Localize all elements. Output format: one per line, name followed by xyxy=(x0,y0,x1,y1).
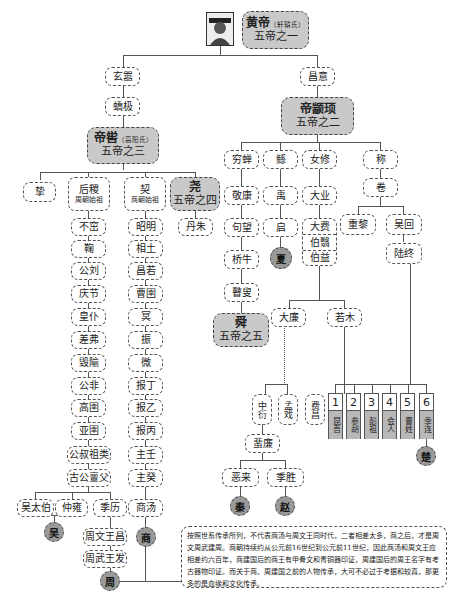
node-luzhong[interactable]: 陆终 xyxy=(386,243,422,264)
node-feichang[interactable]: 费昌 xyxy=(305,394,325,425)
node-chongli[interactable]: 重黎 xyxy=(340,214,376,235)
node-caoyu[interactable]: 曹圉 xyxy=(128,285,163,303)
luzhong-son-3[interactable]: 3彭祖 xyxy=(364,393,379,439)
node-label: 公刘 xyxy=(79,265,99,277)
node-yayu[interactable]: 亚圉 xyxy=(71,422,106,440)
node-xiangtu[interactable]: 相土 xyxy=(128,240,163,258)
node-label: 契 xyxy=(140,184,150,196)
son-number: 4 xyxy=(383,394,396,411)
node-changyi[interactable]: 昌意 xyxy=(300,67,335,86)
state-zhao-badge[interactable]: 赵 xyxy=(275,496,295,516)
node-daye[interactable]: 大业 xyxy=(302,186,337,205)
node-clan: （轩辕氏） xyxy=(270,21,305,29)
luzhong-son-5[interactable]: 5曹姓 xyxy=(400,393,415,439)
node-juwang[interactable]: 句望 xyxy=(224,218,259,237)
node-qi[interactable]: 启 xyxy=(263,218,298,237)
state-chu-badge[interactable]: 楚 xyxy=(416,446,436,466)
node-changruo[interactable]: 昌若 xyxy=(128,262,163,280)
node-zhongyan[interactable]: 中衍 xyxy=(252,394,272,425)
node-gun[interactable]: 鲧 xyxy=(263,150,298,169)
state-wu-badge[interactable]: 吴 xyxy=(44,522,64,542)
node-gugongdanfu[interactable]: 古公亶父 xyxy=(67,469,111,487)
node-buzhu[interactable]: 不窋 xyxy=(71,218,106,236)
node-label: 仲雍 xyxy=(62,502,82,514)
node-qiaoniu[interactable]: 桥牛 xyxy=(224,250,259,269)
connector xyxy=(354,384,355,393)
node-jiaoji[interactable]: 蟜极 xyxy=(105,97,140,116)
node-gusou[interactable]: 瞽叟 xyxy=(224,283,259,302)
node-zhaoming[interactable]: 昭明 xyxy=(128,218,163,236)
node-xie[interactable]: 契 商朝始祖 xyxy=(124,177,166,211)
node-wutaibo[interactable]: 吴太伯 xyxy=(17,499,54,517)
node-huiyu[interactable]: 毁隃 xyxy=(71,354,106,372)
node-huangdi[interactable]: 黄帝（轩辕氏） 五帝之一 xyxy=(242,11,309,49)
node-baoding[interactable]: 报丁 xyxy=(128,377,163,395)
node-wei[interactable]: 微 xyxy=(128,354,163,372)
node-zhouwenwang[interactable]: 周文王昌 xyxy=(83,528,127,546)
node-nvxiu[interactable]: 女修 xyxy=(302,150,337,169)
node-label: 敬康 xyxy=(232,190,252,202)
luzhong-son-6[interactable]: 6季连 xyxy=(419,393,434,439)
node-cheng[interactable]: 称 xyxy=(363,150,398,169)
node-label: 中衍 xyxy=(257,401,267,419)
node-ming[interactable]: 冥 xyxy=(128,308,163,326)
node-zhuren[interactable]: 主壬 xyxy=(128,446,163,464)
connector xyxy=(120,581,182,582)
connector xyxy=(72,492,73,499)
node-label: 公非 xyxy=(79,380,99,392)
node-gongshuzulei[interactable]: 公叔祖类 xyxy=(67,446,111,464)
state-zhou-badge[interactable]: 周 xyxy=(100,571,120,591)
state-shang-badge[interactable]: 商 xyxy=(136,527,156,547)
node-zhouwuwang[interactable]: 周武王发 xyxy=(83,550,127,568)
node-yu[interactable]: 禹 xyxy=(263,186,298,205)
node-gongfei[interactable]: 公非 xyxy=(71,377,106,395)
node-zhen[interactable]: 振 xyxy=(128,331,163,349)
state-qin-badge[interactable]: 秦 xyxy=(230,496,250,516)
node-chafu[interactable]: 差弗 xyxy=(71,331,106,349)
node-mengxi[interactable]: 孟戏 xyxy=(278,394,298,425)
node-zhi[interactable]: 挚 xyxy=(23,182,56,202)
node-qingjie[interactable]: 庆节 xyxy=(71,285,106,303)
node-feilian[interactable]: 蜚廉 xyxy=(245,434,280,453)
node-wuhui[interactable]: 吴回 xyxy=(386,214,422,235)
node-qiongchan[interactable]: 穷蝉 xyxy=(224,150,259,169)
node-baobing[interactable]: 报丙 xyxy=(128,422,163,440)
node-label: 瞽叟 xyxy=(232,287,252,299)
node-gaoyu[interactable]: 高圉 xyxy=(71,399,106,417)
node-jisheng[interactable]: 季胜 xyxy=(267,468,304,487)
node-diku[interactable]: 帝喾（高阳氏） 五帝之三 xyxy=(87,127,159,164)
node-shangtang[interactable]: 商汤 xyxy=(128,499,163,517)
node-baoyi[interactable]: 报乙 xyxy=(128,399,163,417)
node-jingkang[interactable]: 敬康 xyxy=(224,186,259,205)
node-zhuanxu[interactable]: 帝颛顼 五帝之二 xyxy=(281,97,354,135)
node-yao[interactable]: 尧 五帝之四 xyxy=(170,177,220,211)
node-dalian[interactable]: 大廉 xyxy=(271,308,306,327)
node-gongliu[interactable]: 公刘 xyxy=(71,262,106,280)
connector xyxy=(35,492,36,499)
node-label: 陆终 xyxy=(394,248,414,260)
node-label: 曹圉 xyxy=(136,288,156,300)
node-zhongyong[interactable]: 仲雍 xyxy=(55,499,88,517)
node-zhugui[interactable]: 主癸 xyxy=(128,469,163,487)
node-jili[interactable]: 季历 xyxy=(93,499,127,517)
luzhong-son-1[interactable]: 1昆吾 xyxy=(328,393,343,439)
node-title: 五帝之二 xyxy=(296,117,340,130)
node-label: 若木 xyxy=(335,312,355,324)
node-ju[interactable]: 鞠 xyxy=(71,240,106,258)
state-xia-badge[interactable]: 夏 xyxy=(270,247,292,269)
node-houji[interactable]: 后稷 周朝始祖 xyxy=(68,177,110,211)
node-label: 毁隃 xyxy=(79,357,99,369)
connector xyxy=(335,384,427,385)
node-ruomu[interactable]: 若木 xyxy=(327,308,362,327)
node-juan[interactable]: 卷 xyxy=(363,178,398,197)
luzhong-son-4[interactable]: 4会人 xyxy=(382,393,397,439)
luzhong-son-2[interactable]: 2参胡 xyxy=(346,393,361,439)
node-shun[interactable]: 舜 五帝之五 xyxy=(213,313,269,347)
node-danzhu[interactable]: 丹朱 xyxy=(178,218,213,236)
node-dafei-group[interactable]: 大费 伯翳 伯益 xyxy=(302,218,337,266)
node-huangpu[interactable]: 皇仆 xyxy=(71,308,106,326)
node-label: 相土 xyxy=(136,243,156,255)
portrait-icon xyxy=(206,12,234,46)
node-xuanxiao[interactable]: 玄嚣 xyxy=(105,67,140,86)
node-elai[interactable]: 恶来 xyxy=(222,468,259,487)
